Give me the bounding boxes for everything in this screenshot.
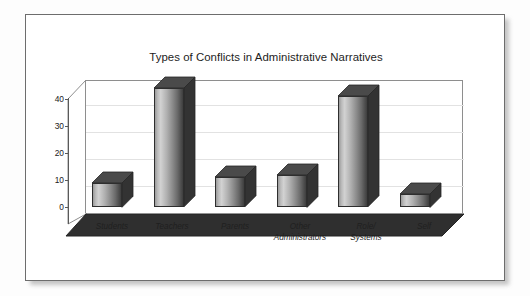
x-label-other-administrators: Other Administrators xyxy=(265,222,335,243)
chart-page: Types of Conflicts in Administrative Nar… xyxy=(0,0,530,296)
x-label-students: Students xyxy=(83,222,141,233)
x-label-teachers: Teachers xyxy=(143,222,201,233)
plot-area: 40 30 20 10 0 Students Teachers Parents … xyxy=(26,15,506,282)
x-label-role-systems: Role/ Systems xyxy=(337,222,395,243)
x-label-parents: Parents xyxy=(206,222,264,233)
chart-frame: Types of Conflicts in Administrative Nar… xyxy=(25,14,505,281)
x-axis-labels: Students Teachers Parents Other Administ… xyxy=(26,15,506,282)
x-label-self: Self xyxy=(399,222,449,233)
